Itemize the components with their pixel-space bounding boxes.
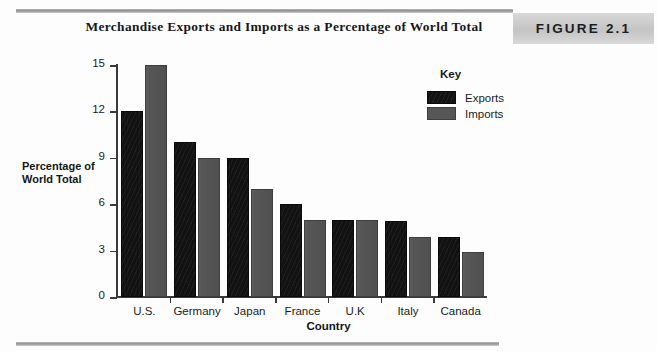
y-axis-title: Percentage of World Total bbox=[22, 160, 108, 186]
y-tick-label-3: 3 bbox=[99, 243, 105, 255]
bar-france-exports bbox=[280, 204, 302, 297]
bar-canada-exports bbox=[438, 237, 460, 297]
legend-title: Key bbox=[440, 68, 504, 80]
legend-swatch-exports-icon bbox=[427, 91, 456, 104]
y-axis-title-line-1: Percentage of bbox=[22, 160, 108, 173]
legend-swatch-imports-icon bbox=[427, 107, 456, 120]
bar-japan-exports bbox=[227, 158, 249, 297]
legend-item-exports: Exports bbox=[427, 91, 504, 104]
y-tick-label-12: 12 bbox=[92, 103, 105, 115]
bar-uk-imports bbox=[356, 220, 378, 297]
y-tick-label-15: 15 bbox=[92, 57, 105, 69]
x-label-uk: U.K bbox=[346, 305, 365, 317]
y-axis-title-line-2: World Total bbox=[22, 173, 108, 186]
figure-page: Merchandise Exports and Imports as a Per… bbox=[0, 0, 657, 351]
x-tick-2 bbox=[222, 297, 224, 303]
y-tick-label-6: 6 bbox=[99, 196, 105, 208]
y-tick-15: 15 bbox=[110, 65, 117, 67]
x-label-us: U.S. bbox=[133, 305, 155, 317]
bar-us-exports bbox=[121, 111, 143, 297]
x-tick-6 bbox=[433, 297, 435, 303]
x-label-italy: Italy bbox=[397, 305, 418, 317]
y-tick-3: 3 bbox=[110, 251, 117, 253]
y-tick-9: 9 bbox=[110, 158, 117, 160]
x-label-germany: Germany bbox=[173, 305, 220, 317]
bottom-rule bbox=[16, 342, 499, 346]
bar-japan-imports bbox=[251, 189, 273, 297]
bar-italy-imports bbox=[409, 237, 431, 297]
x-tick-3 bbox=[275, 297, 277, 303]
bar-canada-imports bbox=[462, 252, 484, 297]
bar-us-imports bbox=[145, 65, 167, 297]
bar-germany-imports bbox=[198, 158, 220, 297]
x-tick-5 bbox=[381, 297, 383, 303]
legend-label-imports: Imports bbox=[465, 108, 503, 120]
bar-france-imports bbox=[304, 220, 326, 297]
x-tick-1 bbox=[170, 297, 172, 303]
x-label-japan: Japan bbox=[234, 305, 265, 317]
y-tick-0: 0 bbox=[110, 297, 117, 299]
bar-italy-exports bbox=[385, 221, 407, 297]
legend-item-imports: Imports bbox=[427, 107, 504, 120]
x-label-canada: Canada bbox=[440, 305, 480, 317]
y-tick-label-0: 0 bbox=[99, 289, 105, 301]
chart-legend: Key Exports Imports bbox=[427, 68, 504, 123]
y-tick-6: 6 bbox=[110, 204, 117, 206]
bar-uk-exports bbox=[332, 220, 354, 297]
y-tick-12: 12 bbox=[110, 111, 117, 113]
bar-chart: 03691215 U.S.GermanyJapanFranceU.KItalyC… bbox=[0, 0, 657, 351]
x-tick-4 bbox=[328, 297, 330, 303]
x-label-france: France bbox=[285, 305, 321, 317]
x-axis-title: Country bbox=[0, 320, 657, 332]
legend-label-exports: Exports bbox=[465, 92, 504, 104]
bar-germany-exports bbox=[174, 142, 196, 297]
